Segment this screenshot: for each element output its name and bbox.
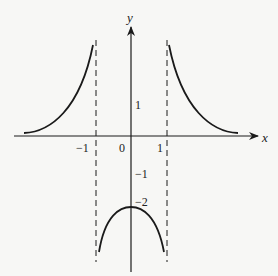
origin-label: 0 (119, 141, 125, 155)
x-axis-label: x (261, 130, 268, 145)
tick-x-neg1: −1 (76, 141, 89, 155)
tick-y-neg2: −2 (135, 195, 148, 209)
tick-y-neg1: −1 (135, 167, 148, 181)
tick-y-pos1: 1 (135, 98, 141, 112)
curve-left-branch (24, 45, 93, 133)
tick-x-pos1: 1 (157, 141, 163, 155)
curve-right-branch (169, 45, 238, 133)
graph: y x 0 −1 1 1 −1 −2 (0, 0, 278, 276)
y-axis-label: y (125, 10, 133, 25)
